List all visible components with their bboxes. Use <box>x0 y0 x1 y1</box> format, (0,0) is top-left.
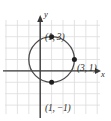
point-label-top: (1, 3) <box>45 33 64 43</box>
point-label-bottom: (1, −1) <box>45 104 71 114</box>
point-marker-right <box>72 57 77 62</box>
circle-graph-figure: (1, 3) (3, 1) (1, −1) y x <box>0 0 111 121</box>
point-marker-bottom <box>49 80 54 85</box>
y-axis-arrowhead <box>37 15 43 22</box>
point-label-right: (3, 1) <box>77 64 96 74</box>
x-axis-label: x <box>101 70 105 79</box>
y-axis-label: y <box>44 10 48 19</box>
